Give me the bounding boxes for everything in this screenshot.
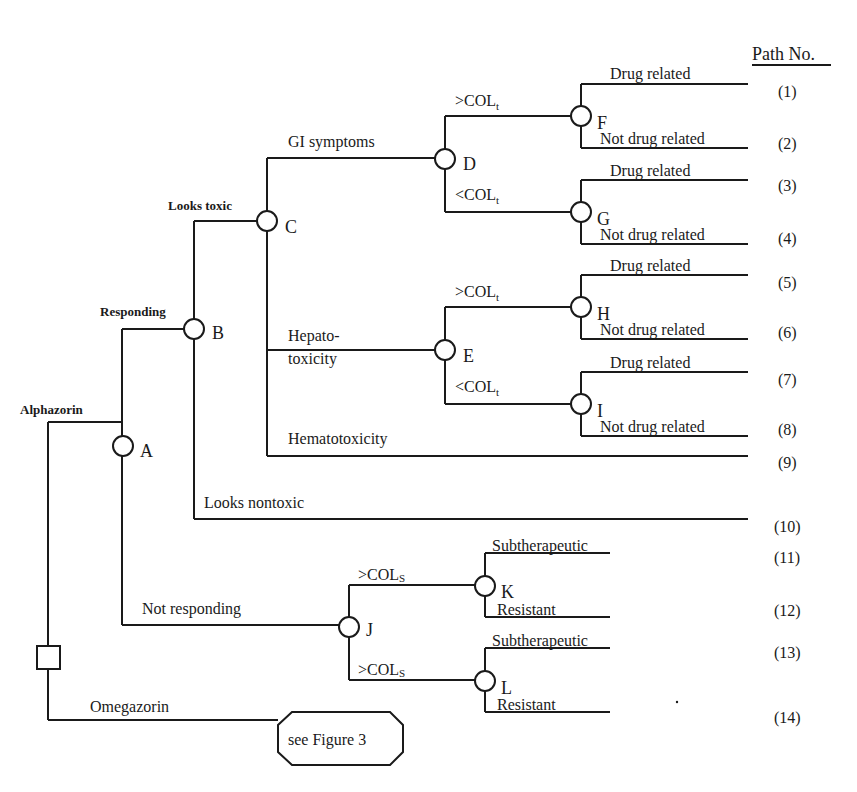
chance-node-d[interactable] [435, 149, 455, 169]
chance-node-g[interactable] [571, 202, 591, 222]
node-f-outcomes: Drug related Not drug related [581, 65, 748, 148]
path-number-4: (4) [778, 230, 797, 248]
f-drug-related-label: Drug related [610, 65, 690, 83]
k-resistant-label: Resistant [497, 601, 556, 618]
omegazorin-label: Omegazorin [90, 698, 169, 716]
chance-node-c[interactable] [257, 211, 277, 231]
stray-dot [676, 701, 678, 703]
node-b-label: B [212, 323, 224, 343]
node-d-label: D [463, 154, 476, 174]
looks-toxic-label: Looks toxic [168, 198, 232, 213]
j-upper-col-label: >COLS [358, 566, 405, 584]
alphazorin-label: Alphazorin [20, 402, 84, 417]
node-j-label: J [366, 620, 373, 640]
l-resistant-label: Resistant [497, 696, 556, 713]
path-number-10: (10) [774, 518, 801, 536]
node-h-outcomes: Drug related Not drug related [581, 257, 748, 339]
g-not-drug-related-label: Not drug related [600, 226, 705, 244]
j-lower-col-label: >COLS [358, 661, 405, 679]
see-figure-3-label: see Figure 3 [288, 731, 366, 749]
node-i-label: I [597, 401, 603, 421]
node-c-label: C [285, 217, 297, 237]
chance-node-f[interactable] [571, 106, 591, 126]
node-l-label: L [501, 678, 512, 698]
node-h-label: H [597, 304, 610, 324]
i-drug-related-label: Drug related [610, 354, 690, 372]
chance-node-b[interactable] [184, 319, 204, 339]
path-number-6: (6) [778, 324, 797, 342]
node-f-label: F [597, 113, 607, 133]
path-number-2: (2) [778, 135, 797, 153]
hematotoxicity-label: Hematotoxicity [288, 430, 388, 448]
looks-nontoxic-label: Looks nontoxic [204, 494, 304, 511]
path-number-14: (14) [774, 709, 801, 727]
node-e-label: E [463, 346, 474, 366]
h-not-drug-related-label: Not drug related [600, 321, 705, 339]
e-gt-col-label: >COLt [455, 283, 499, 303]
chance-node-k[interactable] [475, 576, 495, 596]
chance-node-i[interactable] [571, 394, 591, 414]
h-drug-related-label: Drug related [610, 257, 690, 275]
root-branches [48, 422, 278, 720]
path-number-5: (5) [778, 274, 797, 292]
f-not-drug-related-label: Not drug related [600, 130, 705, 148]
l-subtherapeutic-label: Subtherapeutic [492, 632, 588, 650]
node-l-outcomes: Subtherapeutic Resistant [485, 632, 610, 713]
path-number-7: (7) [778, 371, 797, 389]
hepatotoxicity-label-line1: Hepato- [288, 327, 340, 345]
decision-tree-diagram: Path No. Alphazorin Omegazorin see Figur… [0, 0, 857, 792]
i-not-drug-related-label: Not drug related [600, 418, 705, 436]
chance-node-h[interactable] [571, 297, 591, 317]
path-number-13: (13) [774, 644, 801, 662]
path-number-12: (12) [774, 602, 801, 620]
path-number-11: (11) [774, 549, 800, 567]
path-numbers: (1) (2) (3) (4) (5) (6) (7) (8) (9) (10)… [774, 83, 801, 727]
see-figure-3-terminal[interactable]: see Figure 3 [278, 712, 403, 765]
node-i-outcomes: Drug related Not drug related [581, 354, 748, 436]
d-lt-col-label: <COLt [455, 186, 499, 206]
gi-symptoms-label: GI symptoms [288, 133, 375, 151]
path-number-3: (3) [778, 177, 797, 195]
not-responding-label: Not responding [142, 600, 241, 618]
node-g-label: G [597, 209, 610, 229]
node-k-label: K [501, 582, 514, 602]
decision-node-root[interactable] [37, 646, 60, 669]
chance-node-j[interactable] [339, 617, 359, 637]
path-number-9: (9) [778, 454, 797, 472]
g-drug-related-label: Drug related [610, 162, 690, 180]
path-number-header: Path No. [752, 44, 815, 64]
responding-label: Responding [100, 304, 166, 319]
path-number-1: (1) [778, 83, 797, 101]
node-g-outcomes: Drug related Not drug related [581, 162, 748, 244]
chance-node-a[interactable] [113, 436, 133, 456]
chance-node-e[interactable] [435, 340, 455, 360]
hepatotoxicity-label-line2: toxicity [288, 350, 337, 368]
path-number-8: (8) [778, 421, 797, 439]
chance-node-l[interactable] [475, 671, 495, 691]
node-a-label: A [140, 441, 153, 461]
k-subtherapeutic-label: Subtherapeutic [492, 537, 588, 555]
node-k-outcomes: Subtherapeutic Resistant [485, 537, 610, 618]
d-gt-col-label: >COLt [455, 92, 499, 112]
e-lt-col-label: <COLt [455, 378, 499, 398]
